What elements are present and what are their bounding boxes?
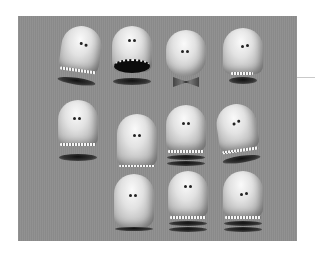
head-shape [223,28,263,74]
eye-icon [128,39,131,42]
character-head-3 [166,30,206,90]
jaw-shape [167,155,205,160]
teeth-band [168,150,204,153]
eye-icon [129,194,132,197]
edge-line [297,77,315,78]
jaw-shape [59,154,97,161]
eye-icon [245,192,248,195]
jaw-shape [229,77,257,84]
eye-icon [133,134,136,137]
head-shape [166,105,206,151]
jaw-shape [169,221,207,226]
character-head-11 [223,171,263,231]
head-shape [214,102,260,153]
character-head-6 [117,114,157,174]
open-mouth [114,59,150,73]
lip-line [119,165,155,167]
head-shape [58,100,98,146]
eye-icon [246,44,249,47]
head-shape [168,171,208,217]
eye-icon [138,134,141,137]
eye-icon [133,39,136,42]
head-shape [223,171,263,217]
eye-icon [186,50,189,53]
head-shape [117,114,157,166]
jaw-shape [224,227,262,232]
character-head-2 [112,26,152,86]
character-head-9 [114,174,154,234]
eye-icon [181,50,184,53]
character-head-1 [56,24,104,89]
jaw-shape [57,75,96,87]
jaw-shape [224,221,262,226]
eye-icon [240,193,243,196]
character-head-8 [214,102,262,167]
head-shape [114,174,154,228]
teeth-band [170,216,206,219]
eye-icon [78,117,81,120]
eye-icon [189,185,192,188]
eye-icon [134,194,137,197]
jaw-shape [169,227,207,232]
character-head-5 [58,100,98,160]
teeth-band [60,143,96,146]
jaw-shape [167,161,205,166]
character-head-4 [223,28,263,88]
character-head-7 [166,105,206,165]
eye-icon [182,122,185,125]
eye-icon [187,122,190,125]
character-head-10 [168,171,208,231]
teeth-band [231,72,253,75]
eye-icon [184,185,187,188]
teeth-band [225,216,261,219]
jaw-shape [113,78,151,85]
bowtie-shape [173,77,199,87]
jaw-shape [222,153,261,165]
chin-shadow [115,227,153,231]
eye-icon [241,45,244,48]
image-panel [18,16,297,241]
head-shape [166,30,206,76]
eye-icon [73,117,76,120]
